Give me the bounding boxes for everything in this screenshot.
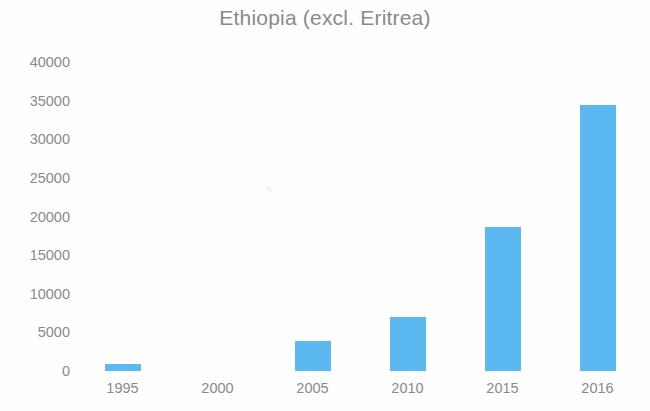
- x-axis-tick-label: 2000: [201, 381, 233, 396]
- y-axis-tick-label: 30000: [0, 132, 70, 147]
- plot-area: [75, 62, 645, 371]
- y-axis-tick-label: 35000: [0, 93, 70, 108]
- bar: [580, 105, 616, 371]
- y-axis-tick-label: 15000: [0, 248, 70, 263]
- bar: [390, 317, 426, 371]
- x-axis-tick-label: 2010: [391, 381, 423, 396]
- y-axis: 4000035000300002500020000150001000050000: [0, 62, 70, 371]
- y-axis-tick-label: 5000: [0, 325, 70, 340]
- y-axis-tick-label: 0: [0, 364, 70, 379]
- bar-chart: Ethiopia (excl. Eritrea) 400003500030000…: [0, 0, 650, 411]
- bar: [295, 341, 331, 371]
- x-axis-tick-label: 2015: [486, 381, 518, 396]
- bar: [105, 364, 141, 371]
- y-axis-tick-label: 20000: [0, 209, 70, 224]
- x-axis-tick-label: 2016: [581, 381, 613, 396]
- y-axis-tick-label: 25000: [0, 171, 70, 186]
- chart-title: Ethiopia (excl. Eritrea): [0, 6, 650, 30]
- x-axis-tick-label: 2005: [296, 381, 328, 396]
- bar: [485, 227, 521, 371]
- x-axis-tick-label: 1995: [106, 381, 138, 396]
- x-axis: 199520002005201020152016: [75, 381, 645, 407]
- y-axis-tick-label: 10000: [0, 287, 70, 302]
- y-axis-tick-label: 40000: [0, 55, 70, 70]
